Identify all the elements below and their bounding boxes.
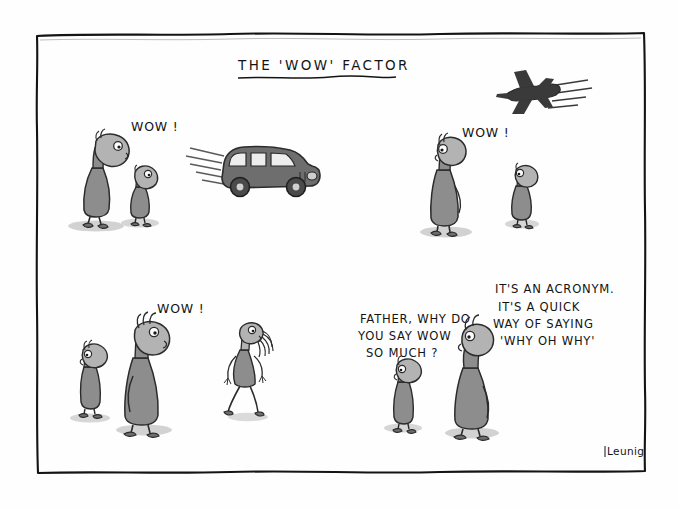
signature-text: Leunig <box>607 445 644 457</box>
cartoon-page: THE 'WOW' FACTOR <box>0 0 678 509</box>
answer-line-1: IT'S AN ACRONYM. <box>495 282 614 296</box>
shadow-adult-1 <box>68 221 124 232</box>
answer-line-2: IT'S A QUICK <box>498 300 580 314</box>
shadow-child-3 <box>70 414 110 423</box>
artist-signature: Leunig <box>605 445 644 457</box>
answer-line-4: 'WHY OH WHY' <box>500 334 595 348</box>
question-line-2: YOU SAY WOW <box>357 329 451 343</box>
shadow-child-2 <box>505 220 539 229</box>
speech-wow-car: WOW ! <box>131 119 179 134</box>
cartoon-canvas: THE 'WOW' FACTOR <box>0 0 678 509</box>
speech-wow-jet: WOW ! <box>462 125 510 140</box>
shadow-child-1 <box>121 219 159 228</box>
shadow-child-4 <box>384 424 422 433</box>
page-title: THE 'WOW' FACTOR <box>237 57 410 73</box>
speech-wow-woman: WOW ! <box>157 301 205 316</box>
question-line-1: FATHER, WHY DO <box>360 312 471 326</box>
shadow-adult-2 <box>420 227 472 238</box>
answer-line-3: WAY OF SAYING <box>493 317 594 331</box>
question-line-3: SO MUCH ? <box>366 346 438 360</box>
